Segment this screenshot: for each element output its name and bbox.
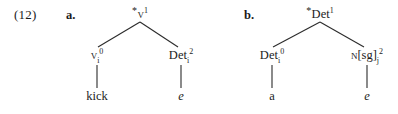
tree-b-left-daughter-node: Deti0 bbox=[260, 49, 284, 62]
tree-b-root-category: Det bbox=[312, 7, 330, 21]
tree-b-left-daughter-superscript: 0 bbox=[280, 47, 284, 56]
tree-label-a: a. bbox=[66, 8, 75, 23]
tree-b-root-superscript: 1 bbox=[330, 6, 334, 15]
tree-a-left-terminal: kick bbox=[86, 90, 108, 103]
tree-a-root-superscript: 1 bbox=[144, 6, 148, 15]
tree-a-right-daughter-node: Deti2 bbox=[169, 49, 193, 62]
tree-b-left-terminal: a bbox=[269, 90, 275, 103]
tree-b-right-daughter-features: [sg] bbox=[357, 48, 376, 62]
tree-a-right-daughter-superscript: 2 bbox=[189, 47, 193, 56]
tree-b-left-daughter-subscript: i bbox=[278, 56, 280, 65]
tree-b-left-branch bbox=[273, 22, 320, 47]
syntax-tree-figure: (12) a. *v1 vi0 Deti2 kick e b. *Det1 De… bbox=[0, 0, 398, 114]
tree-a-left-branch bbox=[98, 22, 140, 47]
tree-a-left-daughter-superscript: 0 bbox=[99, 47, 103, 56]
tree-b-right-daughter-superscript: 2 bbox=[379, 47, 383, 56]
tree-b-root-node: *Det1 bbox=[306, 6, 333, 20]
tree-a-root-node: *v1 bbox=[132, 6, 148, 20]
tree-label-b: b. bbox=[244, 8, 254, 23]
tree-a-right-branch bbox=[140, 22, 178, 47]
tree-b-right-daughter-node: N[sg]j2 bbox=[351, 49, 383, 62]
tree-b-right-daughter-subscript: j bbox=[377, 56, 379, 65]
tree-branch-lines bbox=[0, 0, 398, 114]
tree-b-right-branch bbox=[320, 22, 364, 47]
tree-a-right-terminal: e bbox=[178, 90, 184, 103]
tree-a-left-daughter-node: vi0 bbox=[91, 49, 104, 62]
example-number: (12) bbox=[14, 7, 36, 23]
tree-a-left-daughter-subscript: i bbox=[97, 56, 99, 65]
tree-a-right-daughter-category: Det bbox=[169, 48, 187, 62]
tree-b-right-terminal: e bbox=[364, 90, 370, 103]
tree-a-right-daughter-subscript: i bbox=[187, 56, 189, 65]
tree-b-left-daughter-category: Det bbox=[260, 48, 278, 62]
